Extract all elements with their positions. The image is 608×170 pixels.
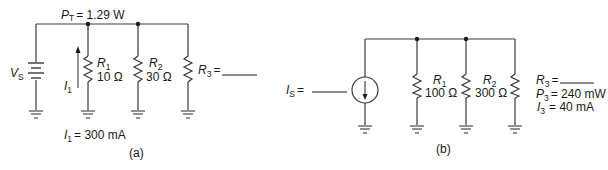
circuit-b: IS= R1 100 Ω R2 300 Ω R3=	[286, 37, 606, 156]
ground-icon	[131, 111, 145, 118]
current-source-icon	[352, 77, 378, 103]
ground-icon	[508, 126, 522, 133]
resistor-r2-b-icon	[462, 74, 470, 98]
ground-icon	[181, 111, 195, 118]
resistor-r2-a-icon	[134, 56, 142, 82]
r2-a-value: 30 Ω	[146, 70, 172, 84]
current-arrow-icon	[76, 46, 81, 88]
ground-icon	[358, 126, 372, 133]
junction-node	[86, 22, 90, 26]
junction-node	[464, 37, 468, 41]
caption-b: (b)	[436, 142, 451, 156]
caption-a: (a)	[129, 146, 144, 160]
r1-a-value: 10 Ω	[97, 70, 123, 84]
junction-node	[136, 22, 140, 26]
current-i1-label: I1	[64, 79, 72, 95]
ground-icon	[459, 126, 473, 133]
r1-b-value: 100 Ω	[425, 86, 457, 100]
r3-a-label: R3=	[198, 63, 220, 79]
given-current-label: I1= 300 mA	[64, 128, 126, 144]
circuit-diagrams: PT= 1.29 W VS I1 R1 10 Ω R2 30 Ω R3= I1=…	[0, 0, 608, 170]
ground-icon	[81, 111, 95, 118]
source-voltage-label: VS	[10, 66, 24, 82]
r2-b-value: 300 Ω	[475, 86, 507, 100]
ground-icon	[29, 111, 43, 118]
resistor-r1-a-icon	[84, 56, 92, 82]
resistor-r3-a-icon	[184, 56, 192, 82]
source-current-label: IS=	[286, 83, 304, 99]
battery-icon	[28, 63, 44, 78]
ground-icon	[410, 126, 424, 133]
resistor-r3-b-icon	[511, 74, 519, 98]
resistor-r1-b-icon	[413, 74, 421, 98]
junction-node	[415, 37, 419, 41]
circuit-a: PT= 1.29 W VS I1 R1 10 Ω R2 30 Ω R3= I1=…	[10, 8, 257, 160]
total-power-label: PT= 1.29 W	[61, 8, 125, 23]
